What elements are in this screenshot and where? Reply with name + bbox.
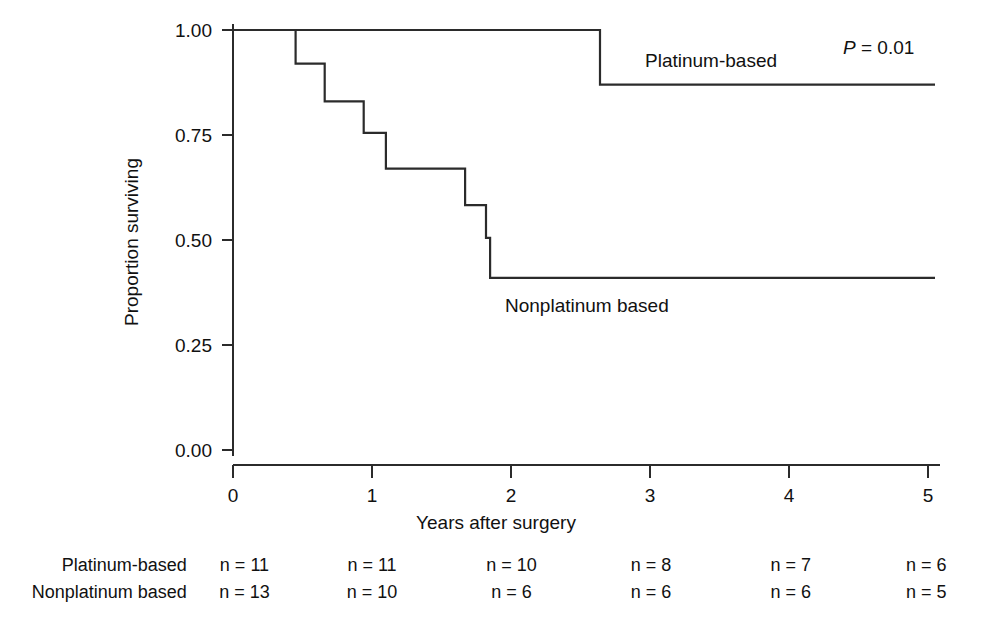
risk-cell-nonplatinum-year-0: n = 13 — [187, 579, 302, 606]
risk-cell-platinum-year-3: n = 8 — [581, 552, 721, 579]
risk-cell-nonplatinum-year-1: n = 10 — [302, 579, 442, 606]
y-tick-label-0-75: 0.75 — [152, 126, 212, 145]
p-value-symbol: P — [843, 37, 856, 58]
y-axis-ticks — [222, 30, 233, 450]
x-axis-ticks — [233, 465, 928, 478]
risk-row-label-platinum: Platinum-based — [0, 552, 187, 579]
x-tick-label-2: 2 — [496, 486, 526, 505]
risk-cell-nonplatinum-year-3: n = 6 — [581, 579, 721, 606]
y-tick-label-0-25: 0.25 — [152, 336, 212, 355]
x-tick-label-5: 5 — [913, 486, 943, 505]
y-tick-label-0-00: 0.00 — [152, 441, 212, 460]
platinum-based-curve — [233, 30, 935, 85]
nonplatinum-based-curve — [233, 30, 935, 278]
x-axis-title: Years after surgery — [0, 512, 992, 534]
x-tick-label-4: 4 — [774, 486, 804, 505]
x-tick-label-3: 3 — [635, 486, 665, 505]
y-tick-label-1-00: 1.00 — [152, 21, 212, 40]
table-row: Platinum-based n = 11 n = 11 n = 10 n = … — [0, 552, 992, 579]
plot-canvas — [0, 0, 992, 634]
risk-cell-platinum-year-2: n = 10 — [442, 552, 582, 579]
risk-row-label-nonplatinum: Nonplatinum based — [0, 579, 187, 606]
risk-cell-platinum-year-1: n = 11 — [302, 552, 442, 579]
risk-cell-nonplatinum-year-4: n = 6 — [721, 579, 861, 606]
numbers-at-risk-table: Platinum-based n = 11 n = 11 n = 10 n = … — [0, 552, 992, 606]
risk-cell-platinum-year-4: n = 7 — [721, 552, 861, 579]
risk-cell-platinum-year-0: n = 11 — [187, 552, 302, 579]
x-tick-label-1: 1 — [357, 486, 387, 505]
survival-chart-figure: 1.00 0.75 0.50 0.25 0.00 0 1 2 3 4 5 Pro… — [0, 0, 992, 634]
x-tick-label-0: 0 — [218, 486, 248, 505]
y-tick-label-0-50: 0.50 — [152, 231, 212, 250]
p-value-number: = 0.01 — [856, 37, 915, 58]
nonplatinum-curve-label: Nonplatinum based — [505, 295, 669, 317]
risk-cell-nonplatinum-year-2: n = 6 — [442, 579, 582, 606]
p-value-annotation: P = 0.01 — [843, 37, 914, 59]
risk-cell-platinum-year-5: n = 6 — [860, 552, 992, 579]
risk-cell-nonplatinum-year-5: n = 5 — [860, 579, 992, 606]
table-row: Nonplatinum based n = 13 n = 10 n = 6 n … — [0, 579, 992, 606]
platinum-curve-label: Platinum-based — [645, 50, 777, 72]
y-axis-title: Proportion surviving — [121, 158, 143, 326]
